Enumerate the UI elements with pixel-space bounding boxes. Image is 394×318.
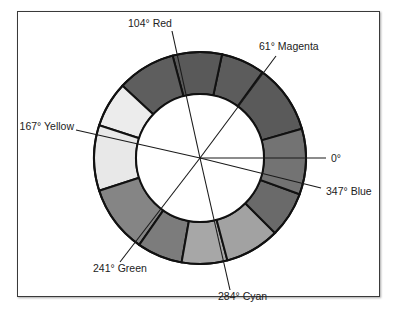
- axis-label-green: 241° Green: [93, 262, 147, 274]
- axis-label-blue: 347° Blue: [326, 185, 372, 197]
- axis-label-red: 104° Red: [128, 17, 172, 29]
- axis-label-yellow: 167° Yellow: [20, 120, 75, 132]
- axis-label-zero: 0°: [331, 152, 341, 164]
- axis-label-magenta: 61° Magenta: [259, 40, 319, 52]
- axis-label-cyan: 284° Cyan: [218, 290, 267, 302]
- color-wheel-diagram: 104° Red61° Magenta167° Yellow0°347° Blu…: [0, 0, 394, 318]
